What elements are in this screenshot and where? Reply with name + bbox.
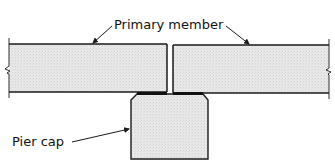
right-bearing-pad bbox=[173, 92, 203, 95]
leader-right bbox=[226, 26, 249, 44]
primary-member-callout: Primary member bbox=[93, 17, 249, 44]
pier-cap-diagram: Primary member Pier cap bbox=[0, 0, 335, 167]
left-primary-member bbox=[5, 38, 167, 98]
left-bearing-pad bbox=[137, 92, 167, 95]
pier-cap bbox=[131, 94, 208, 159]
pier-cap-label: Pier cap bbox=[12, 134, 64, 149]
leader-pier-cap bbox=[72, 129, 129, 142]
leader-left bbox=[93, 26, 112, 43]
pier-cap-callout: Pier cap bbox=[12, 129, 129, 149]
right-primary-member bbox=[173, 39, 331, 99]
primary-member-label: Primary member bbox=[114, 17, 224, 32]
